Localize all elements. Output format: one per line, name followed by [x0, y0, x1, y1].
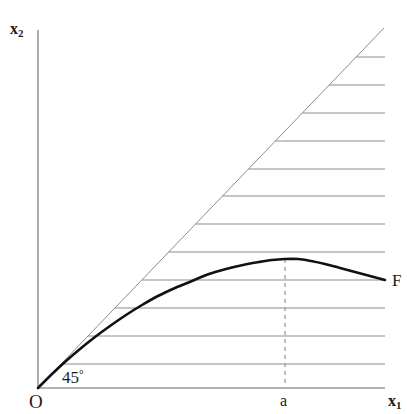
hatching-group	[61, 57, 385, 364]
y-axis-label: x2	[10, 21, 23, 39]
angle-value: 45	[62, 368, 79, 387]
figure-canvas	[0, 0, 407, 414]
angle-label: 45°	[62, 369, 84, 386]
origin-label: O	[29, 392, 43, 411]
x-axis-label-letter: x	[388, 392, 396, 409]
forty-five-degree-ray	[38, 28, 384, 388]
y-axis-label-subscript: 2	[18, 27, 23, 39]
curve-label: F	[392, 272, 401, 289]
x-axis-label-subscript: 1	[396, 399, 401, 411]
y-axis-label-letter: x	[10, 20, 18, 37]
x-axis-label: x1	[388, 393, 401, 411]
production-function-figure: x2 x1 O a 45° F	[0, 0, 407, 414]
degree-symbol: °	[79, 368, 84, 381]
production-function-curve	[38, 259, 385, 388]
x-tick-label-a: a	[280, 393, 287, 409]
